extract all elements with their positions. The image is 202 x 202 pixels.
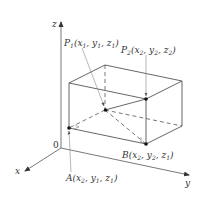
point-p2 [144, 97, 148, 101]
point-p1 [104, 108, 108, 112]
point-a [67, 126, 71, 130]
diagonal-p1-p2 [105, 99, 146, 110]
label-p2: P2(x2, y2, z2) [120, 45, 176, 56]
label-p1: P1(x1, y1, z1) [63, 38, 119, 49]
label-a: A(x2, y1, z1) [65, 173, 118, 184]
diagram-canvas: z x y 0 P1(x1, y1, z1) P2(x2, y2, z2) B(… [0, 0, 202, 202]
z-axis-label: z [51, 19, 57, 29]
x-axis-label: x [15, 166, 20, 176]
y-axis-label: y [184, 178, 191, 188]
origin-label: 0 [53, 140, 59, 150]
label-b: B(x2, y2, z1) [121, 150, 174, 161]
x-axis [25, 148, 61, 171]
point-b [144, 142, 148, 146]
points [67, 97, 148, 146]
